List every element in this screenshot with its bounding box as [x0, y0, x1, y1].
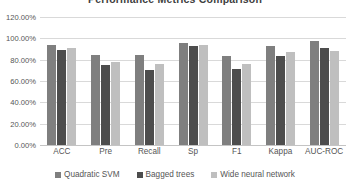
bar — [145, 70, 154, 145]
chart-title: Performance Metrics Comparison — [0, 0, 350, 5]
plot-area — [40, 17, 346, 145]
bar — [47, 45, 56, 145]
x-axis-tick-label: AUC-ROC — [302, 147, 346, 163]
x-axis-tick-label: Pre — [84, 147, 128, 163]
bar — [189, 46, 198, 145]
bar — [276, 56, 285, 145]
bars-layer — [40, 17, 346, 145]
y-axis: 120.00%100.00%80.00%60.00%40.00%20.00%0.… — [0, 0, 38, 188]
y-axis-tick-label: 0.00% — [0, 141, 36, 150]
bar — [242, 64, 251, 145]
bar — [155, 64, 164, 145]
legend-swatch-icon — [137, 172, 143, 178]
legend-item[interactable]: Quadratic SVM — [55, 170, 120, 179]
x-axis-tick-label: ACC — [40, 147, 84, 163]
bar — [286, 52, 295, 145]
y-axis-tick-label: 60.00% — [0, 77, 36, 86]
bar-group — [302, 17, 346, 145]
legend-item[interactable]: Wide neural network — [211, 170, 295, 179]
x-axis-tick-label: Sp — [171, 147, 215, 163]
legend-item[interactable]: Bagged trees — [137, 170, 195, 179]
bar-chart: Performance Metrics Comparison 120.00%10… — [0, 0, 350, 188]
x-axis: ACCPreRecallSpF1KappaAUC-ROC — [40, 147, 346, 163]
bar-group — [259, 17, 303, 145]
bar-group — [215, 17, 259, 145]
bar — [266, 46, 275, 145]
bar — [179, 43, 188, 146]
bar — [57, 50, 66, 145]
bar — [222, 56, 231, 145]
bar-group — [127, 17, 171, 145]
legend-swatch-icon — [55, 172, 61, 178]
bar-group — [40, 17, 84, 145]
bar — [91, 55, 100, 145]
bar — [310, 41, 319, 145]
bar — [111, 62, 120, 145]
bar — [199, 45, 208, 145]
bar-group — [171, 17, 215, 145]
chart-legend: Quadratic SVMBagged treesWide neural net… — [0, 170, 350, 179]
legend-label: Wide neural network — [220, 170, 295, 179]
y-axis-tick-label: 40.00% — [0, 98, 36, 107]
legend-label: Bagged trees — [146, 170, 195, 179]
bar — [320, 48, 329, 145]
y-axis-tick-label: 20.00% — [0, 119, 36, 128]
y-axis-tick-label: 100.00% — [0, 34, 36, 43]
bar-group — [84, 17, 128, 145]
bar — [67, 48, 76, 145]
legend-swatch-icon — [211, 172, 217, 178]
bar — [330, 51, 339, 145]
bar — [135, 55, 144, 145]
axis-baseline — [40, 145, 346, 146]
x-axis-tick-label: Kappa — [259, 147, 303, 163]
y-axis-tick-label: 80.00% — [0, 55, 36, 64]
x-axis-tick-label: Recall — [127, 147, 171, 163]
legend-label: Quadratic SVM — [64, 170, 120, 179]
y-axis-tick-label: 120.00% — [0, 13, 36, 22]
x-axis-tick-label: F1 — [215, 147, 259, 163]
bar — [101, 65, 110, 145]
bar — [232, 69, 241, 145]
